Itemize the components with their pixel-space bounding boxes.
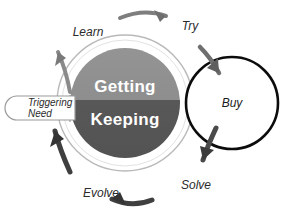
core-label-getting: Getting xyxy=(94,77,156,96)
triggering-need-callout[interactable]: Triggering Need xyxy=(5,95,75,122)
stage-label-learn: Learn xyxy=(73,25,104,39)
customer-lifecycle-diagram: Triggering Need Getting Keeping Buy Lear… xyxy=(0,0,305,219)
callout-line-1: Triggering xyxy=(28,97,73,108)
arrow-learn-to-try xyxy=(120,10,166,22)
buy-circle-label: Buy xyxy=(222,96,244,110)
core-label-keeping: Keeping xyxy=(90,110,159,129)
stage-label-evolve: Evolve xyxy=(83,186,119,200)
stage-label-try: Try xyxy=(182,19,199,33)
arrow-need-to-learn xyxy=(55,52,70,92)
callout-line-2: Need xyxy=(28,108,52,119)
stage-label-solve: Solve xyxy=(181,178,211,192)
diagram-canvas: Triggering Need Getting Keeping Buy Lear… xyxy=(0,0,305,219)
